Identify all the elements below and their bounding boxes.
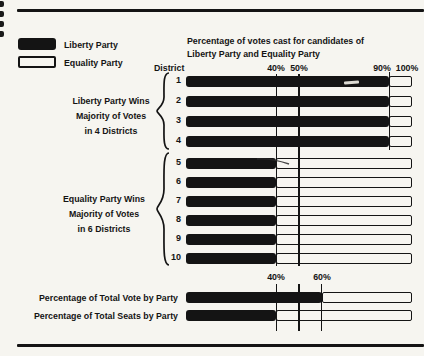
liberty-party-legend-label: Liberty Party [64,40,118,50]
equality-bar-total-1 [276,310,412,321]
scan-edge-artifact [0,21,4,27]
liberty-bar-district-9 [186,234,276,245]
total-row-label: Percentage of Total Vote by Party [10,293,178,303]
top-tick-label: 50% [284,63,314,73]
liberty-party-swatch [18,38,56,50]
equality-bar-district-7 [276,196,412,207]
district-number: 3 [164,115,181,125]
group2-line1: Equality Party Wins [33,192,175,207]
group-label-liberty-wins: Liberty Party Wins Majority of Votes in … [40,94,182,139]
liberty-bar-total-1 [186,310,276,321]
equality-bar-district-5 [276,158,412,169]
chart-title-line1: Percentage of votes cast for candidates … [187,35,364,48]
group1-line2: Majority of Votes [40,109,182,124]
chart-title-line2: Liberty Party and Equality Party [187,48,364,61]
liberty-bar-district-2 [186,96,389,107]
liberty-bar-district-8 [186,215,276,226]
group2-line2: Majority of Votes [33,207,175,222]
group1-line3: in 4 Districts [40,124,182,139]
scan-edge-artifact [0,1,4,7]
district-number: 2 [164,95,181,105]
reference-line-bottom-60 [321,284,323,331]
liberty-bar-district-3 [186,116,389,127]
equality-party-legend-label: Equality Party [64,58,123,68]
equality-bar-district-8 [276,215,412,226]
group-label-equality-wins: Equality Party Wins Majority of Votes in… [33,192,175,237]
equality-bar-district-10 [276,253,412,264]
equality-bar-district-3 [389,116,412,127]
equality-bar-district-2 [389,96,412,107]
bottom-tick-label: 60% [307,272,337,282]
group1-line1: Liberty Party Wins [40,94,182,109]
district-number: 8 [164,214,181,224]
liberty-bar-district-4 [186,136,389,147]
top-rule [17,9,424,12]
total-row-label: Percentage of Total Seats by Party [10,311,178,321]
equality-bar-total-0 [322,292,412,303]
equality-bar-district-9 [276,234,412,245]
district-number: 6 [164,176,181,186]
liberty-bar-district-7 [186,196,276,207]
equality-bar-district-4 [389,136,412,147]
equality-bar-district-1 [389,76,412,87]
bottom-rule [17,344,424,347]
district-number: 10 [164,252,181,262]
equality-bar-district-6 [276,177,412,188]
equality-party-swatch [18,56,56,68]
bottom-tick-label: 40% [261,272,291,282]
group2-line3: in 6 Districts [33,222,175,237]
scan-edge-artifact [0,31,4,37]
liberty-bar-total-0 [186,292,322,303]
scanned-chart-page: Liberty Party Equality Party Percentage … [0,0,424,356]
chart-title: Percentage of votes cast for candidates … [187,35,364,61]
district-number: 9 [164,233,181,243]
district-number: 4 [164,135,181,145]
liberty-bar-district-6 [186,177,276,188]
scan-edge-artifact [0,11,4,17]
district-number: 1 [164,75,181,85]
liberty-bar-district-10 [186,253,276,264]
district-number: 5 [164,157,181,167]
scan-mark-district5 [255,154,295,168]
top-tick-label: 100% [392,63,422,73]
district-number: 7 [164,195,181,205]
